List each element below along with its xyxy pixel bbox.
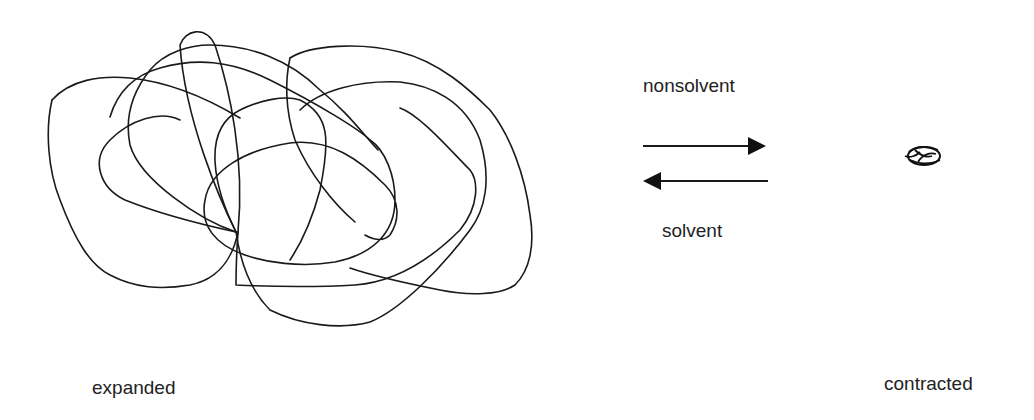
expanded-label: expanded (92, 378, 175, 397)
forward-arrow-right (643, 137, 766, 155)
contracted-label: contracted (884, 374, 973, 393)
expanded-coil (48, 32, 532, 326)
solvent-label: solvent (662, 221, 722, 240)
reverse-arrow-left (643, 172, 768, 190)
diagram-canvas (0, 0, 1034, 420)
contracted-globule (905, 147, 940, 165)
nonsolvent-label: nonsolvent (643, 76, 735, 95)
